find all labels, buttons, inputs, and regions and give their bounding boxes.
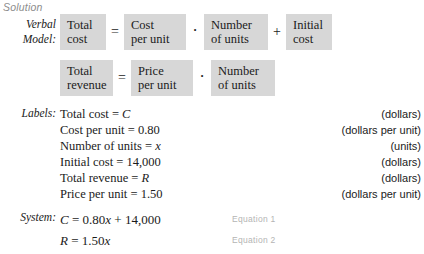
verbal-model-box-number-of-units: Number of units	[211, 60, 275, 96]
gutter-label-system: System:	[0, 211, 56, 224]
gutter-label-verbal-model: Verbal Model:	[0, 17, 56, 46]
system-equations-list: C = 0.80x + 14,000 R = 1.50x	[60, 209, 161, 251]
unit-annotation: (dollars)	[0, 154, 421, 170]
equation-tag-column: Equation 1 Equation 2	[232, 209, 276, 251]
equation-mid: = 1.50	[68, 233, 105, 248]
equation-tag: Equation 1	[232, 209, 276, 230]
unit-annotation: (dollars per unit)	[0, 186, 421, 202]
verbal-model-row-2: Total revenue = Price per unit · Number …	[60, 60, 275, 96]
verbal-model-row-1: Total cost = Cost per unit · Number of u…	[60, 14, 332, 50]
box-line-1: Number	[218, 64, 259, 78]
box-line-2: per unit	[131, 32, 170, 46]
equation-tag: Equation 2	[232, 230, 276, 251]
box-line-1: Total	[67, 64, 93, 78]
verbal-model-box-total-cost: Total cost	[60, 14, 106, 50]
equation-row: C = 0.80x + 14,000	[60, 209, 161, 230]
box-line-2: cost	[293, 32, 313, 46]
operator-equals: =	[106, 25, 124, 39]
box-line-1: Number	[211, 18, 252, 32]
verbal-model-box-cost-per-unit: Cost per unit	[124, 14, 186, 50]
box-line-2: revenue	[67, 78, 107, 92]
box-line-1: Price	[138, 64, 164, 78]
gutter-label-verbal-model-line1: Verbal	[0, 17, 56, 32]
box-line-1: Initial	[293, 18, 323, 32]
box-line-2: cost	[67, 32, 87, 46]
equation-lhs: C	[60, 212, 69, 227]
verbal-model-box-initial-cost: Initial cost	[286, 14, 332, 50]
unit-annotation: (dollars)	[0, 106, 421, 122]
box-line-1: Total	[67, 18, 93, 32]
verbal-model-box-price-per-unit: Price per unit	[131, 60, 193, 96]
equation-tail: + 14,000	[111, 212, 161, 227]
unit-annotation: (dollars per unit)	[0, 122, 421, 138]
verbal-model-box-total-revenue: Total revenue	[60, 60, 113, 96]
box-line-2: of units	[218, 78, 256, 92]
operator-plus: +	[268, 25, 286, 39]
labels-units-column: (dollars) (dollars per unit) (units) (do…	[0, 106, 421, 202]
box-line-1: Cost	[131, 18, 154, 32]
gutter-label-verbal-model-line2: Model:	[0, 32, 56, 47]
unit-annotation: (units)	[0, 138, 421, 154]
operator-equals: =	[113, 71, 131, 85]
equation-lhs: R	[60, 233, 68, 248]
equation-variable: x	[105, 233, 111, 248]
verbal-model-box-number-of-units: Number of units	[204, 14, 268, 50]
box-line-2: per unit	[138, 78, 177, 92]
operator-multiply: ·	[193, 70, 211, 86]
box-line-2: of units	[211, 32, 249, 46]
unit-annotation: (dollars)	[0, 170, 421, 186]
operator-multiply: ·	[186, 24, 204, 40]
section-heading-solution: Solution	[3, 1, 43, 13]
equation-mid: = 0.80	[69, 212, 106, 227]
equation-row: R = 1.50x	[60, 230, 161, 251]
